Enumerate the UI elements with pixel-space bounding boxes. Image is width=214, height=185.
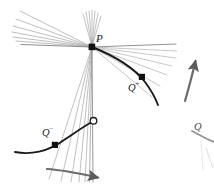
secant-line-fan-upper-left [12,11,92,47]
label-point-q-plus: Q+ [128,81,139,93]
label-edge-partial-q: Q [194,120,202,132]
secant-line [20,11,92,47]
label-point-q-minus: Q− [42,126,53,138]
right-motion-arrow [185,61,196,101]
edge-partial-curve [192,131,214,142]
point-Q-plus-marker [139,74,145,80]
edge-partial-figure [192,131,214,170]
secant-line [92,47,93,182]
secant-line-figure: P Q+ Q− Q [0,0,214,185]
secant-line [92,47,160,86]
secant-line [16,19,92,47]
figure-canvas [0,0,214,185]
edge-partial-secant [206,148,213,168]
secant-line [92,47,152,97]
secant-line-fan-lower-left [49,47,93,182]
label-q-edge-base: Q [194,121,202,132]
label-q-plus-base: Q [128,82,136,93]
secant-line [92,44,176,47]
edge-partial-secant [201,140,203,170]
lower-curve [15,121,94,153]
label-q-plus-superscript: + [136,80,140,87]
limit-point-open-circle [90,118,97,125]
label-q-minus-base: Q [42,127,50,138]
point-Q-minus-marker [52,142,58,148]
secant-line [61,47,92,181]
label-q-minus-superscript: − [50,125,54,132]
label-point-p: P [96,33,103,44]
point-P-marker [89,44,96,51]
